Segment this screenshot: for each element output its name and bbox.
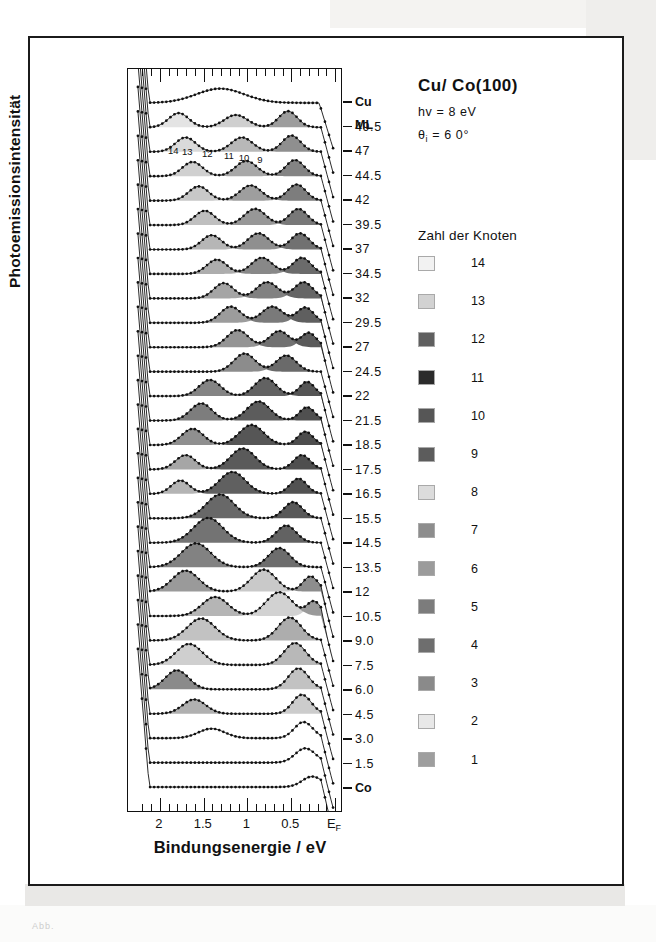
x-tick-label: EF xyxy=(327,816,341,833)
legend-row[interactable]: 9 xyxy=(418,444,478,464)
legend-row[interactable]: 1 xyxy=(418,750,478,770)
y-axis-caption: Photoemissionsintensität xyxy=(6,0,24,288)
coverage-label-row: 13.5 xyxy=(343,561,382,575)
legend-label: 9 xyxy=(471,447,478,461)
legend-row[interactable]: 7 xyxy=(418,520,478,540)
legend-label: 10 xyxy=(471,409,485,423)
angle-value: = 6 0° xyxy=(432,128,469,142)
coverage-label-row: 10.5 xyxy=(343,610,382,624)
angle-label: θi = 6 0° xyxy=(418,128,618,144)
axis-tick xyxy=(283,804,284,811)
coverage-label-row: 44.5 xyxy=(343,169,382,183)
tick-dash xyxy=(343,297,352,299)
node-number-annotation: 13 xyxy=(182,146,193,157)
legend-label: 4 xyxy=(471,638,478,652)
coverage-label-row: 34.5 xyxy=(343,267,382,281)
legend-swatch xyxy=(418,752,435,767)
axis-tick xyxy=(177,804,178,811)
tick-dash xyxy=(343,591,352,593)
coverage-label: 47 xyxy=(355,144,370,158)
axis-tick xyxy=(247,798,248,811)
coverage-label: 7.5 xyxy=(355,659,374,673)
coverage-label-row: 39.5 xyxy=(343,218,382,232)
legend-swatch xyxy=(418,638,435,653)
legend-row[interactable]: 12 xyxy=(418,329,485,349)
x-tick-label: 2 xyxy=(155,816,162,831)
coverage-label: 22 xyxy=(355,389,370,403)
coverage-label: 13.5 xyxy=(355,561,382,575)
legend-swatch xyxy=(418,714,435,729)
node-number-annotation: 10 xyxy=(239,152,250,163)
legend-label: 7 xyxy=(471,523,478,537)
scan-tint-bottom xyxy=(0,905,656,942)
legend-swatch xyxy=(418,485,435,500)
axis-tick xyxy=(221,804,222,811)
coverage-label-row: Co xyxy=(343,781,372,795)
tick-dash xyxy=(343,126,352,128)
axis-tick xyxy=(300,804,301,811)
coverage-label: 49.5 xyxy=(355,120,382,134)
tick-dash xyxy=(343,224,352,226)
axis-tick xyxy=(195,804,196,811)
coverage-label: 37 xyxy=(355,242,370,256)
legend-label: 6 xyxy=(471,562,478,576)
axis-tick xyxy=(309,804,310,811)
legend-row[interactable]: 10 xyxy=(418,406,485,426)
tick-dash xyxy=(343,395,352,397)
legend-row[interactable]: 2 xyxy=(418,711,478,731)
axis-tick xyxy=(318,804,319,811)
tick-dash xyxy=(343,493,352,495)
axis-tick xyxy=(291,798,292,811)
tick-dash xyxy=(343,322,352,324)
angle-subscript: i xyxy=(426,134,429,144)
coverage-label-column: CuML49.54744.54239.53734.53229.52724.522… xyxy=(343,68,423,812)
legend-row[interactable]: 13 xyxy=(418,291,485,311)
coverage-label: 4.5 xyxy=(355,708,374,722)
tick-dash xyxy=(343,199,352,201)
tick-dash xyxy=(343,567,352,569)
tick-dash xyxy=(343,665,352,667)
legend-label: 5 xyxy=(471,600,478,614)
angle-symbol: θ xyxy=(418,128,426,142)
coverage-label-row: 29.5 xyxy=(343,316,382,330)
legend-row[interactable]: 5 xyxy=(418,597,478,617)
coverage-label-row: 12 xyxy=(343,585,370,599)
tick-dash xyxy=(343,542,352,544)
axis-tick xyxy=(335,798,336,811)
legend-swatch xyxy=(418,332,435,347)
coverage-label-row: 27 xyxy=(343,340,370,354)
legend-row[interactable]: 3 xyxy=(418,673,478,693)
tick-dash xyxy=(343,346,352,348)
tick-dash xyxy=(343,273,352,275)
legend-swatch xyxy=(418,561,435,576)
legend-swatch xyxy=(418,370,435,385)
coverage-label-row: 42 xyxy=(343,193,370,207)
legend-row[interactable]: 6 xyxy=(418,559,478,579)
coverage-label-row: 14.5 xyxy=(343,536,382,550)
coverage-label: 34.5 xyxy=(355,267,382,281)
axis-tick xyxy=(230,804,231,811)
node-number-annotation: 11 xyxy=(224,150,234,161)
coverage-label: 6.0 xyxy=(355,683,374,697)
tick-dash xyxy=(343,175,352,177)
legend-row[interactable]: 4 xyxy=(418,635,478,655)
coverage-label-row: 9.0 xyxy=(343,634,374,648)
coverage-label-row: 17.5 xyxy=(343,463,382,477)
legend-label: 11 xyxy=(471,371,484,385)
axis-tick xyxy=(186,804,187,811)
legend-row[interactable]: 8 xyxy=(418,482,478,502)
legend-row[interactable]: 14 xyxy=(418,253,485,273)
coverage-label-row: 16.5 xyxy=(343,487,382,501)
caption-fragment: Abb. xyxy=(32,921,55,931)
coverage-label: 29.5 xyxy=(355,316,382,330)
coverage-label-row: 6.0 xyxy=(343,683,374,697)
bottom-axis-ticks xyxy=(128,798,341,811)
axis-tick xyxy=(274,804,275,811)
coverage-label-row: 21.5 xyxy=(343,414,382,428)
legend-row[interactable]: 11 xyxy=(418,368,484,388)
node-number-annotation: 9 xyxy=(257,154,262,165)
coverage-label-row: 47 xyxy=(343,144,370,158)
x-axis-ticklabels: 21.510.5EF xyxy=(127,816,342,836)
plot-panel: 14131211109 xyxy=(127,68,342,812)
legend-label: 12 xyxy=(471,332,485,346)
